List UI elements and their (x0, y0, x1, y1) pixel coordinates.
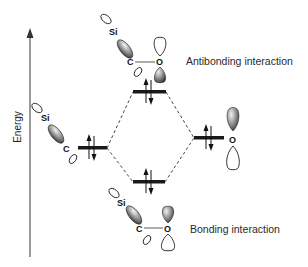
bonding-level-bar (133, 180, 165, 184)
o-atom-label: O (156, 57, 163, 67)
o-shaded-lobe-icon (162, 206, 173, 223)
si-c-bond-lobe-icon (45, 122, 66, 145)
o-shaded-lobe-icon (154, 67, 165, 83)
antibonding-fragment: Si C O (99, 12, 166, 82)
spin-down-arrow-icon (209, 144, 214, 151)
right-level-bar (194, 136, 224, 140)
spin-up-arrow-icon (144, 78, 149, 85)
energy-axis: Energy (12, 28, 34, 257)
c-atom-label: C (63, 144, 70, 154)
bonding-label: Bonding interaction (190, 223, 280, 235)
mo-diagram: Energy (0, 0, 308, 267)
c-atom-label: C (127, 57, 134, 67)
antibonding-level-bar (133, 90, 166, 94)
spin-up-arrow-icon (204, 124, 209, 131)
si-back-lobe-icon (99, 12, 113, 25)
o-atom-label: O (229, 135, 236, 145)
o-open-lobe-icon (154, 37, 166, 56)
bonding-fragment: Si C O (107, 186, 174, 250)
axis-arrow-icon (27, 28, 34, 38)
c-atom-label: C (136, 224, 143, 234)
o-open-lobe-icon (161, 234, 174, 251)
o-shaded-lobe-icon (227, 108, 239, 132)
o-open-lobe-icon (227, 146, 240, 170)
o-atom-label: O (164, 224, 171, 234)
left-si-c-fragment: Si C (30, 101, 78, 164)
si-atom-label: Si (109, 27, 118, 37)
c-back-lobe-icon (133, 66, 144, 78)
antibonding-label: Antibonding interaction (186, 55, 293, 67)
spin-up-arrow-icon (87, 134, 92, 141)
c-back-lobe-icon (68, 153, 79, 165)
si-atom-label: Si (41, 113, 50, 123)
spin-down-arrow-icon (92, 154, 97, 161)
si-atom-label: Si (117, 198, 126, 208)
right-o-fragment: O (227, 108, 240, 170)
correlation-lines (107, 92, 194, 182)
spin-down-arrow-icon (149, 188, 154, 195)
c-back-lobe-icon (142, 234, 153, 246)
energy-axis-label: Energy (12, 111, 23, 143)
spin-down-arrow-icon (149, 98, 154, 105)
left-level-bar (78, 146, 107, 150)
spin-up-arrow-icon (144, 168, 149, 175)
